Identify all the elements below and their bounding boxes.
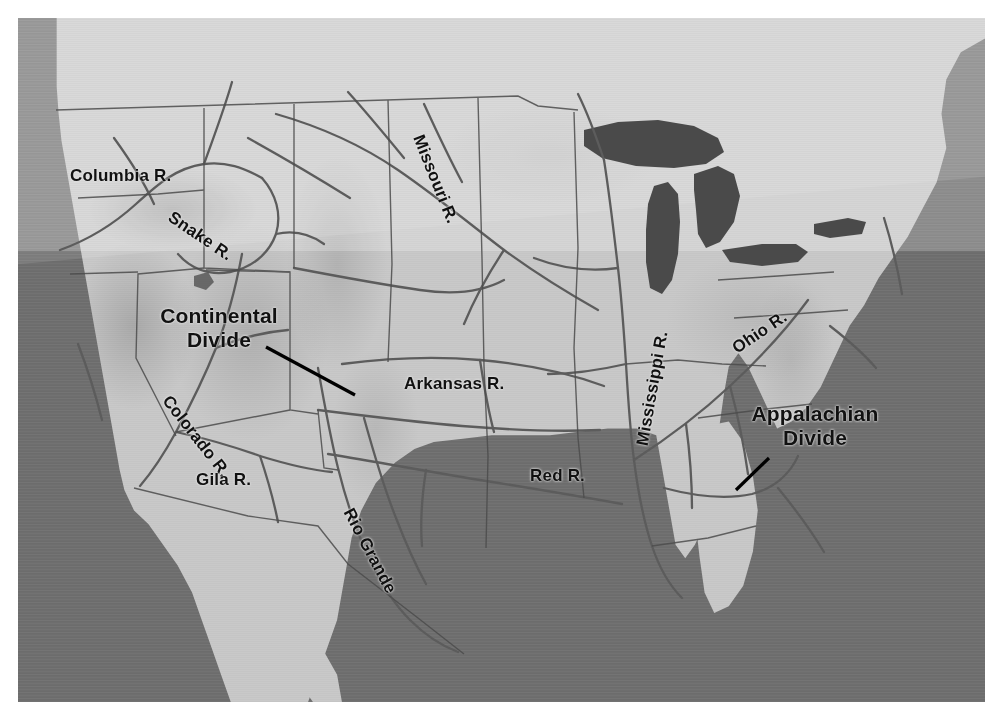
divide-label-continental-line1: Continental (134, 304, 304, 328)
river-label-gila: Gila R. (196, 470, 251, 489)
divide-label-appalachian: Appalachian Divide (726, 402, 904, 449)
river-label-columbia: Columbia R. (70, 166, 171, 185)
appalachian-divide-leader-line (736, 458, 769, 490)
map-figure: Columbia R. Snake R. Missouri R. Mississ… (0, 0, 1005, 722)
divide-label-appalachian-line1: Appalachian (726, 402, 904, 426)
river-label-arkansas: Arkansas R. (404, 374, 504, 393)
continental-divide-leader-line (266, 347, 355, 395)
divide-label-continental: Continental Divide (134, 304, 304, 351)
leader-lines-layer (18, 18, 985, 702)
river-label-red: Red R. (530, 466, 585, 485)
map-plate: Columbia R. Snake R. Missouri R. Mississ… (18, 18, 985, 702)
divide-label-continental-line2: Divide (134, 328, 304, 352)
divide-label-appalachian-line2: Divide (726, 426, 904, 450)
